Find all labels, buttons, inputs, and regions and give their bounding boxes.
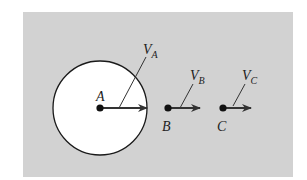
- point-a-label: A: [95, 89, 105, 104]
- point-c-label: C: [217, 119, 227, 134]
- point-a-dot: [96, 104, 103, 111]
- velocity-diagram: A VA B VB C VC: [0, 0, 307, 180]
- point-b-dot: [164, 104, 171, 111]
- point-c-dot: [219, 104, 226, 111]
- point-b-label: B: [162, 119, 171, 134]
